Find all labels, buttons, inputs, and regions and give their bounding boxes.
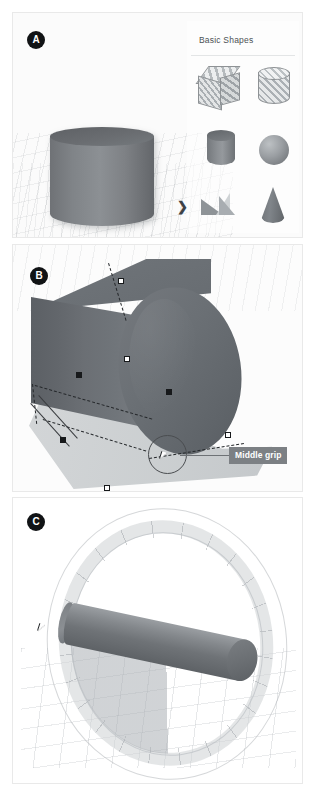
cylinder-body — [50, 136, 154, 226]
edge-grip-left[interactable] — [60, 437, 66, 443]
chevron-right-icon[interactable]: ❯ — [177, 199, 188, 214]
solid-end-cap-highlight — [129, 299, 199, 419]
top-middle-grip[interactable] — [118, 278, 124, 284]
figure-container: Basic Shapes — [0, 0, 319, 796]
panel-badge-b: B — [30, 267, 48, 285]
face-middle-grip[interactable] — [124, 356, 130, 362]
shape-option-cone[interactable] — [249, 181, 297, 229]
extruded-cylinder[interactable] — [31, 259, 263, 459]
cylinder-solid-top — [207, 130, 235, 141]
base-center-grip[interactable] — [166, 389, 172, 395]
arrow-cursor-c — [38, 623, 45, 632]
pyramid-face-c — [219, 196, 235, 215]
corner-grip-right[interactable] — [225, 432, 231, 438]
callout-middle-grip: Middle grip — [229, 447, 287, 464]
cylinder-top-face — [50, 127, 154, 146]
palette-title: Basic Shapes — [199, 35, 253, 45]
sphere-body — [259, 135, 289, 165]
corner-grip-bottom[interactable] — [104, 485, 110, 491]
center-grip[interactable] — [76, 372, 82, 378]
shape-option-cylinder-solid[interactable] — [197, 125, 245, 173]
basic-shapes-palette[interactable]: Basic Shapes — [187, 21, 299, 233]
cylinder-solid-a[interactable] — [50, 127, 154, 235]
panel-c: C — [12, 497, 303, 784]
shape-option-cylinder-hatched[interactable] — [249, 63, 297, 111]
cone-body — [261, 187, 285, 223]
panel-badge-a: A — [27, 31, 45, 49]
panel-a: Basic Shapes — [12, 12, 303, 238]
shape-option-box-hatched[interactable] — [197, 63, 245, 111]
viewport-a[interactable]: Basic Shapes — [13, 13, 302, 237]
box-left-face — [198, 76, 222, 111]
cylinder-hatched-top — [258, 67, 290, 80]
callout-leader-line — [180, 455, 230, 456]
shape-option-pyramid[interactable] — [197, 181, 245, 229]
palette-divider — [191, 55, 295, 56]
box-right-face — [220, 72, 240, 106]
panel-badge-c: C — [27, 513, 45, 531]
shape-option-sphere[interactable] — [249, 125, 297, 173]
viewport-c[interactable] — [13, 498, 302, 783]
